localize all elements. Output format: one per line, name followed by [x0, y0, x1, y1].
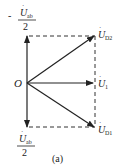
svg-text:ab: ab: [27, 13, 33, 19]
label-u1: U 1 ·: [98, 73, 108, 90]
svg-text:·: ·: [99, 73, 101, 81]
origin-label: O: [14, 77, 22, 89]
vector-ud2: [27, 36, 94, 83]
svg-text:ab: ab: [26, 139, 32, 145]
phasor-diagram: O U D2 · U 1 · U D1 · - · U ab 2 · U ab …: [0, 0, 120, 167]
svg-text:1: 1: [105, 84, 108, 90]
label-uab-half: · U ab 2: [17, 128, 35, 158]
svg-text:D2: D2: [105, 35, 112, 41]
svg-text:-: -: [8, 10, 11, 21]
caption: (a): [52, 153, 63, 165]
vector-ud1: [27, 83, 94, 127]
svg-text:2: 2: [22, 147, 27, 158]
svg-text:2: 2: [23, 21, 28, 32]
svg-text:·: ·: [99, 119, 101, 127]
label-neg-uab-half: - · U ab 2: [8, 2, 36, 32]
label-ud1: U D1 ·: [98, 119, 112, 136]
label-ud2: U D2 ·: [98, 24, 112, 41]
svg-text:·: ·: [99, 24, 101, 32]
svg-text:D1: D1: [105, 130, 112, 136]
